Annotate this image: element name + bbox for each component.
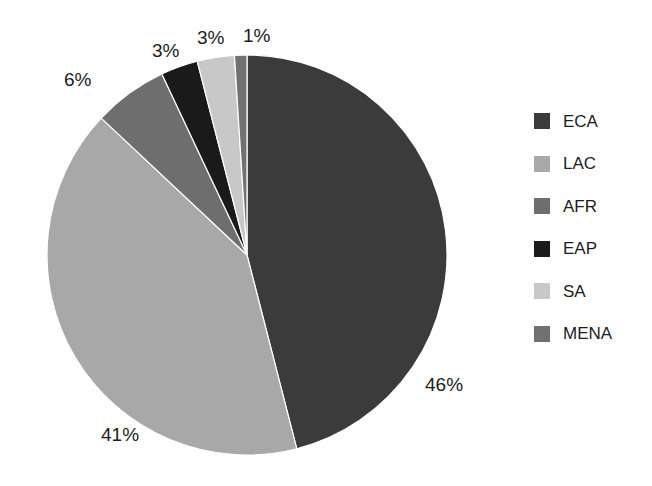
legend-label: LAC: [563, 155, 596, 172]
slice-label-lac: 41%: [101, 424, 139, 446]
legend-item-eca[interactable]: ECA: [534, 100, 646, 143]
legend-label: ECA: [563, 113, 598, 130]
pie-chart-figure: 46% 41% 6% 3% 3% 1% ECALACAFREAPSAMENA: [0, 0, 652, 486]
legend-swatch-afr: [534, 198, 550, 214]
slice-label-eca: 46%: [425, 374, 463, 396]
slice-label-eap: 3%: [152, 40, 179, 62]
legend-item-eap[interactable]: EAP: [534, 228, 646, 271]
slice-label-sa: 3%: [197, 27, 224, 49]
legend-label: EAP: [563, 240, 597, 257]
pie-slice-group: [47, 55, 447, 455]
legend-label: SA: [563, 283, 586, 300]
legend-swatch-eap: [534, 241, 550, 257]
legend-item-sa[interactable]: SA: [534, 270, 646, 313]
slice-label-mena: 1%: [243, 25, 270, 47]
legend-item-lac[interactable]: LAC: [534, 143, 646, 186]
pie-plot-area: 46% 41% 6% 3% 3% 1%: [0, 0, 480, 486]
legend-item-afr[interactable]: AFR: [534, 185, 646, 228]
chart-legend: ECALACAFREAPSAMENA: [534, 100, 646, 355]
legend-swatch-sa: [534, 283, 550, 299]
legend-label: MENA: [563, 325, 612, 342]
legend-label: AFR: [563, 198, 597, 215]
legend-swatch-eca: [534, 113, 550, 129]
legend-swatch-mena: [534, 326, 550, 342]
legend-item-mena[interactable]: MENA: [534, 313, 646, 356]
slice-label-afr: 6%: [64, 69, 91, 91]
legend-swatch-lac: [534, 156, 550, 172]
